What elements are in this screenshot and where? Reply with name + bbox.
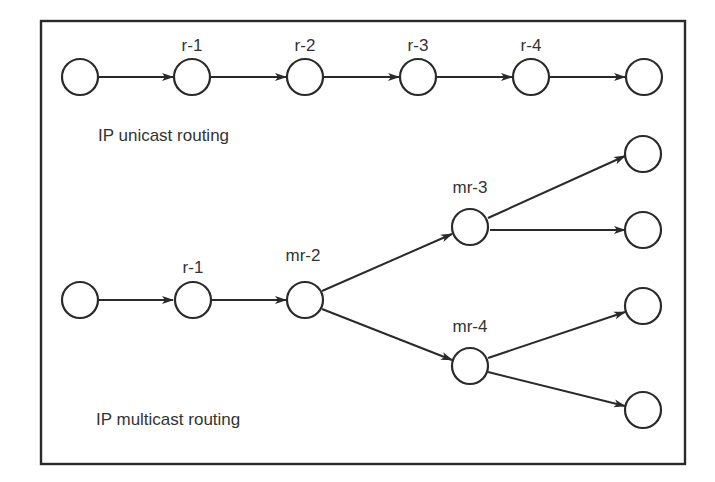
routing-diagram: r-1 r-2 r-3 r-4 IP unicast routing r-1 m… — [0, 0, 715, 482]
label-multicast-r1: r-1 — [183, 258, 204, 277]
multicast-router-r1 — [175, 282, 211, 318]
multicast-receiver-2 — [625, 212, 661, 248]
unicast-router-r4 — [513, 59, 549, 95]
multicast-receiver-1 — [625, 136, 661, 172]
multicast-tree: r-1 mr-2 mr-3 mr-4 IP multicast routing — [62, 136, 661, 429]
unicast-router-r2 — [287, 59, 323, 95]
multicast-receiver-4 — [625, 392, 661, 428]
label-r2: r-2 — [295, 36, 316, 55]
unicast-source-node — [62, 59, 98, 95]
multicast-receiver-3 — [625, 288, 661, 324]
unicast-destination-node — [626, 59, 662, 95]
multicast-source-node — [62, 282, 98, 318]
label-mr3: mr-3 — [453, 178, 488, 197]
label-r3: r-3 — [408, 36, 429, 55]
label-r1: r-1 — [182, 36, 203, 55]
multicast-router-mr2 — [287, 282, 323, 318]
unicast-path: r-1 r-2 r-3 r-4 IP unicast routing — [62, 36, 662, 145]
unicast-router-r3 — [400, 59, 436, 95]
label-r4: r-4 — [521, 36, 542, 55]
multicast-caption: IP multicast routing — [96, 410, 240, 429]
label-mr2: mr-2 — [286, 246, 321, 265]
unicast-router-r1 — [174, 59, 210, 95]
multicast-router-mr4 — [452, 348, 488, 384]
unicast-caption: IP unicast routing — [98, 126, 229, 145]
label-mr4: mr-4 — [453, 317, 488, 336]
multicast-router-mr3 — [452, 209, 488, 245]
